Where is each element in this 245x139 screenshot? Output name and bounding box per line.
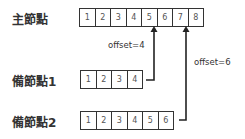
arrow-secondary2-to-cell7 [179,29,186,120]
arrow-secondary1-to-cell5 [146,29,154,80]
connector-arrows [0,0,245,139]
arrowhead-icon [151,26,158,32]
arrowhead-icon [183,26,190,32]
